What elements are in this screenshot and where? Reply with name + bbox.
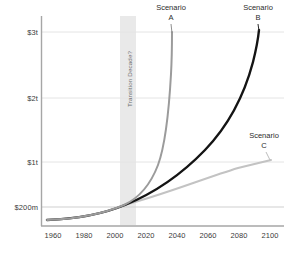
x-axis-tick-1960: 1960 <box>44 231 61 240</box>
series-label-scenario-a-name: Scenario <box>156 3 186 13</box>
series-label-scenario-a-id: A <box>156 13 186 23</box>
series-label-scenario-c: Scenario C <box>249 131 279 150</box>
y-axis-tick-1t: $1t <box>6 158 38 167</box>
series-label-scenario-c-id: C <box>249 141 279 151</box>
series-label-scenario-b-name: Scenario <box>243 3 273 13</box>
chart-container: $3t $2t $1t $200m 1960 1980 2000 2020 20… <box>0 0 296 259</box>
scenario-c-leader-line <box>266 152 270 160</box>
series-label-scenario-c-name: Scenario <box>249 131 279 141</box>
x-axis-tick-2020: 2020 <box>137 231 154 240</box>
x-axis-tick-2040: 2040 <box>168 231 185 240</box>
transition-decade-band <box>120 16 136 225</box>
x-axis-tick-1980: 1980 <box>75 231 92 240</box>
series-label-scenario-a: Scenario A <box>156 3 186 22</box>
series-label-scenario-b-id: B <box>243 13 273 23</box>
y-axis-tick-2t: $2t <box>6 94 38 103</box>
x-axis-tick-2080: 2080 <box>230 231 247 240</box>
y-axis-tick-200m: $200m <box>0 203 38 212</box>
x-axis-tick-2060: 2060 <box>199 231 216 240</box>
series-line-scenario-c <box>124 160 271 205</box>
y-axis-tick-3t: $3t <box>6 28 38 37</box>
x-axis-tick-2100: 2100 <box>261 231 278 240</box>
series-line-scenario-b <box>47 30 259 220</box>
chart-plot-svg <box>0 0 296 259</box>
transition-decade-label: Transition Decade? <box>126 51 133 107</box>
x-axis-tick-2000: 2000 <box>106 231 123 240</box>
series-label-scenario-b: Scenario B <box>243 3 273 22</box>
